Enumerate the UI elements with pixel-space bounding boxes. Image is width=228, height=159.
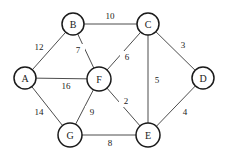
edge-weight-d-e: 4 — [183, 107, 188, 117]
weighted-graph-figure: 1210716146534298 ABCDEFG — [0, 0, 228, 159]
edge-weight-f-e: 2 — [124, 96, 129, 106]
graph-nodes-layer: ABCDEFG — [14, 13, 214, 147]
edge-weight-c-e: 5 — [155, 75, 160, 85]
edge-weight-c-d: 3 — [181, 40, 186, 50]
graph-node-e[interactable]: E — [136, 123, 160, 147]
graph-node-label-e: E — [145, 130, 151, 141]
graph-node-g[interactable]: G — [58, 123, 82, 147]
graph-edge-weights-layer: 1210716146534298 — [32, 10, 192, 149]
graph-node-b[interactable]: B — [62, 13, 84, 35]
edge-weight-f-g: 9 — [90, 107, 95, 117]
edge-weight-c-f: 6 — [125, 52, 130, 62]
edge-weight-b-f: 7 — [76, 45, 81, 55]
graph-node-label-b: B — [70, 19, 77, 30]
graph-node-d[interactable]: D — [192, 67, 214, 89]
graph-node-label-d: D — [199, 73, 206, 84]
graph-node-a[interactable]: A — [14, 67, 36, 89]
graph-node-label-a: A — [21, 73, 29, 84]
graph-edges-layer — [32, 24, 196, 135]
edge-weight-a-b: 12 — [35, 42, 44, 52]
graph-node-label-f: F — [96, 74, 102, 85]
graph-canvas: 1210716146534298 ABCDEFG — [0, 0, 228, 159]
edge-weight-g-e: 8 — [108, 138, 113, 148]
edge-weight-a-g: 14 — [35, 107, 45, 117]
graph-node-label-c: C — [145, 19, 152, 30]
graph-node-label-g: G — [66, 130, 73, 141]
graph-node-c[interactable]: C — [137, 13, 159, 35]
graph-edge-a-f — [36, 78, 87, 79]
graph-node-f[interactable]: F — [87, 67, 111, 91]
edge-weight-a-f: 16 — [62, 81, 72, 91]
edge-weight-b-c: 10 — [106, 11, 116, 21]
